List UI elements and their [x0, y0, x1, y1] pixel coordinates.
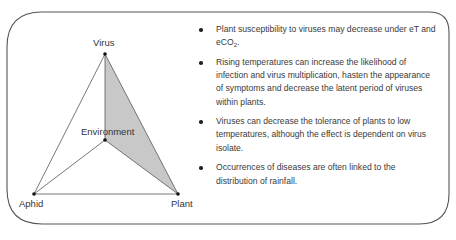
environment-point [103, 138, 107, 142]
bullet-icon [199, 28, 203, 32]
virus-point [103, 52, 107, 56]
bullet-text: Viruses can decrease the tolerance of pl… [216, 116, 426, 152]
bullet-tail: . [237, 37, 239, 47]
environment-label: Environment [81, 126, 134, 137]
bullet-icon [199, 166, 203, 170]
bullet-icon [199, 61, 203, 65]
aphid-point [32, 192, 36, 196]
bullet-item: Rising temperatures can increase the lik… [196, 56, 436, 109]
bullet-text: Rising temperatures can increase the lik… [216, 57, 430, 107]
bullet-item: Viruses can decrease the tolerance of pl… [196, 115, 436, 155]
bullet-text: Occurrences of diseases are often linked… [216, 162, 396, 185]
bullet-text: Plant susceptibility to viruses may decr… [216, 24, 436, 47]
virus-label: Virus [93, 37, 114, 48]
plant-point [176, 192, 180, 196]
aphid-label: Aphid [19, 198, 43, 209]
bullet-icon [199, 120, 203, 124]
bullet-item: Plant susceptibility to viruses may decr… [196, 23, 436, 49]
plant-label: Plant [171, 198, 193, 209]
bullet-item: Occurrences of diseases are often linked… [196, 161, 436, 187]
bullet-list: Plant susceptibility to viruses may decr… [196, 23, 436, 194]
